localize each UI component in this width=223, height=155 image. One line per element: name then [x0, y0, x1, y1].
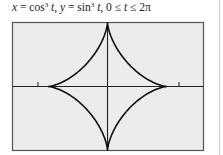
page-right-rule — [219, 0, 220, 155]
astroid-plot — [0, 0, 223, 155]
